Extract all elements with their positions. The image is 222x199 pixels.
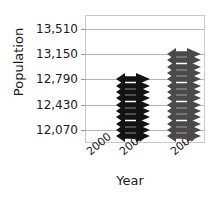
x-axis-tick-label: 2000 (84, 130, 114, 158)
gridline (86, 29, 204, 30)
y-axis-tick (81, 29, 86, 30)
y-axis-tick-label: 12,070 (36, 123, 78, 137)
data-marker (167, 129, 201, 142)
x-axis-title: Year (95, 173, 165, 188)
y-axis-title: Population (11, 7, 31, 117)
data-marker (116, 129, 150, 142)
y-axis-tick (81, 130, 86, 131)
y-axis-tick-label: 13,150 (36, 47, 78, 61)
y-axis-tick (81, 54, 86, 55)
population-by-year-chart: Population Year 12,07012,43012,79013,150… (0, 0, 222, 199)
y-axis-tick-label: 12,790 (36, 72, 78, 86)
y-axis-tick (81, 79, 86, 80)
plot-area: 12,07012,43012,79013,15013,5102000200220… (85, 15, 205, 143)
y-axis-tick-label: 13,510 (36, 22, 78, 36)
y-axis-tick-label: 12,430 (36, 98, 78, 112)
y-axis-tick (81, 105, 86, 106)
